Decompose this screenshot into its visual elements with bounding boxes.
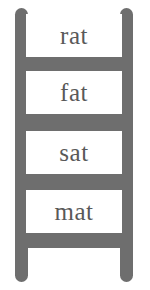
ladder-rung-bar [15,114,133,131]
word-panel: mat [26,190,122,233]
word-label-sat: sat [59,140,88,165]
word-label-rat: rat [60,23,88,48]
word-panel: rat [26,14,122,57]
word-label-fat: fat [60,80,88,105]
ladder-rung-bar [15,233,133,248]
word-panel: fat [26,71,122,114]
word-label-mat: mat [55,199,94,224]
ladder-rung-bar [15,174,133,190]
word-panel: sat [26,131,122,174]
ladder-rung-bar [15,57,133,71]
word-ladder-figure: rat fat sat mat [0,0,150,290]
